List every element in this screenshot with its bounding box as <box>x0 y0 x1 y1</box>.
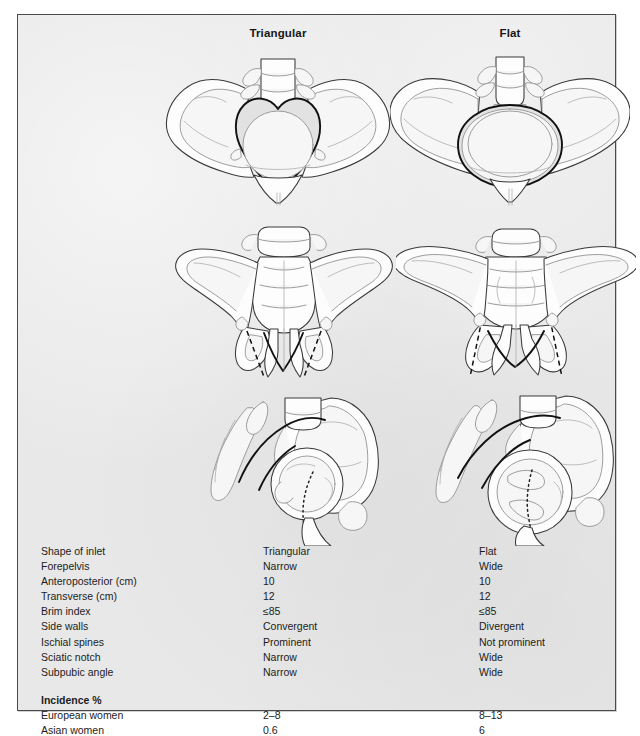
table-row: Brim index ≤85 ≤85 <box>18 604 617 619</box>
comparison-table: Shape of inlet Triangular Flat Forepelvi… <box>18 544 617 736</box>
row-value-triangular: ≤85 <box>263 604 280 619</box>
row-value-flat: Flat <box>479 544 497 559</box>
row-value-triangular: 12 <box>263 589 275 604</box>
column-heading-triangular: Triangular <box>198 27 358 39</box>
row-value-triangular: 10 <box>263 574 275 589</box>
illustration-lateral-flat <box>406 386 640 546</box>
row-label: Transverse (cm) <box>41 589 117 604</box>
illustration-lateral-triangular <box>173 386 413 546</box>
row-value-flat: Divergent <box>479 619 524 634</box>
row-label: Subpubic angle <box>41 665 113 680</box>
incidence-heading: Incidence % <box>41 693 102 708</box>
row-value-flat: 8–13 <box>479 708 502 723</box>
row-value-triangular: Narrow <box>263 650 297 665</box>
row-value-flat: 12 <box>479 589 491 604</box>
row-label: Asian women <box>41 723 104 736</box>
row-value-triangular: Prominent <box>263 635 311 650</box>
row-value-triangular: Narrow <box>263 559 297 574</box>
table-row: Ischial spines Prominent Not prominent <box>18 635 617 650</box>
figure-frame: Triangular Flat <box>17 14 616 711</box>
table-row: Asian women 0.6 6 <box>18 723 617 736</box>
table-row: Subpubic angle Narrow Wide <box>18 665 617 680</box>
row-value-triangular: 2–8 <box>263 708 281 723</box>
row-label: European women <box>41 708 123 723</box>
row-label: Shape of inlet <box>41 544 105 559</box>
illustration-anterior-flat <box>396 219 636 379</box>
table-row: Shape of inlet Triangular Flat <box>18 544 617 559</box>
row-label: Ischial spines <box>41 635 104 650</box>
row-value-flat: Wide <box>479 665 503 680</box>
table-section-spacer <box>18 680 617 693</box>
row-value-triangular: Narrow <box>263 665 297 680</box>
row-value-flat: Wide <box>479 559 503 574</box>
row-value-flat: Not prominent <box>479 635 545 650</box>
row-value-flat: 10 <box>479 574 491 589</box>
row-value-flat: Wide <box>479 650 503 665</box>
illustration-inlet-triangular <box>158 47 398 207</box>
table-row: European women 2–8 8–13 <box>18 708 617 723</box>
illustration-grid <box>18 41 617 541</box>
row-label: Brim index <box>41 604 91 619</box>
table-row: Anteroposterior (cm) 10 10 <box>18 574 617 589</box>
incidence-section-heading-row: Incidence % <box>18 693 617 708</box>
row-label: Sciatic notch <box>41 650 101 665</box>
row-value-triangular: Triangular <box>263 544 310 559</box>
illustration-anterior-triangular <box>164 219 404 379</box>
table-row: Forepelvis Narrow Wide <box>18 559 617 574</box>
illustration-inlet-flat <box>390 47 630 207</box>
table-row: Side walls Convergent Divergent <box>18 619 617 634</box>
row-value-flat: ≤85 <box>479 604 496 619</box>
table-row: Sciatic notch Narrow Wide <box>18 650 617 665</box>
row-value-flat: 6 <box>479 723 485 736</box>
column-heading-flat: Flat <box>430 27 590 39</box>
row-value-triangular: 0.6 <box>263 723 278 736</box>
row-label: Forepelvis <box>41 559 89 574</box>
row-value-triangular: Convergent <box>263 619 317 634</box>
row-label: Side walls <box>41 619 88 634</box>
row-label: Anteroposterior (cm) <box>41 574 137 589</box>
table-row: Transverse (cm) 12 12 <box>18 589 617 604</box>
